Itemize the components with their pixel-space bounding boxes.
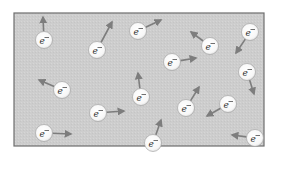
electron-label: e [134,27,139,37]
electron-label: e [251,134,256,144]
electron-label: e [246,28,251,38]
electron-label: e [94,109,99,119]
velocity-arrow-icon [53,133,72,134]
electron-diagram: eeeeeeeeeeeeeee [0,0,281,171]
electron-label: e [40,36,45,46]
electron-label: e [58,86,63,96]
electron-label: e [93,46,98,56]
electron-label: e [224,100,229,110]
electron-label: e [137,93,142,103]
electron-label: e [168,58,173,68]
electron-label: e [182,104,187,114]
velocity-arrow-icon [43,17,44,32]
electron-label: e [243,68,248,78]
diagram-canvas: eeeeeeeeeeeeeee [0,0,281,171]
electron-label: e [149,139,154,149]
electron-label: e [206,42,211,52]
electron-label: e [40,129,45,139]
